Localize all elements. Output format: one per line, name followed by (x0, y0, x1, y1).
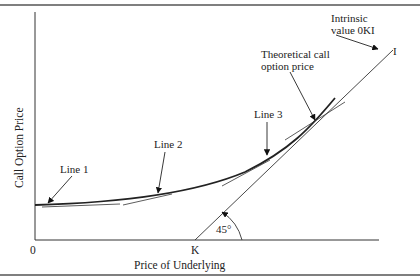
theoretical-annotation-line2: option price (261, 60, 314, 72)
theoretical-price-arrow (290, 72, 315, 120)
line-1-arrow (48, 176, 72, 203)
angle-label: 45° (216, 223, 231, 235)
theoretical-price-curve-upper (335, 80, 352, 98)
strike-label: K (191, 244, 200, 256)
line-3-label: Line 3 (254, 108, 283, 120)
line-2-arrow (158, 152, 165, 193)
y-axis-label: Call Option Price (13, 108, 26, 189)
tangent-line-3 (222, 160, 270, 186)
call-option-price-diagram: 0 K Price of Underlying Call Option Pric… (0, 0, 420, 280)
intrinsic-annotation-line1: Intrinsic (331, 12, 368, 24)
line-2-label: Line 2 (154, 138, 182, 150)
intrinsic-value-line (195, 50, 393, 240)
intrinsic-value-arrow (336, 35, 378, 49)
origin-label: 0 (30, 244, 36, 256)
intrinsic-annotation-line2: value 0KI (331, 24, 375, 36)
line-1-label: Line 1 (60, 163, 88, 175)
theoretical-price-curve (35, 98, 335, 205)
theoretical-annotation-line1: Theoretical call (261, 48, 330, 60)
x-axis-label: Price of Underlying (134, 259, 226, 272)
intrinsic-end-label: I (393, 45, 397, 57)
tangent-line-theoretical (285, 102, 345, 140)
